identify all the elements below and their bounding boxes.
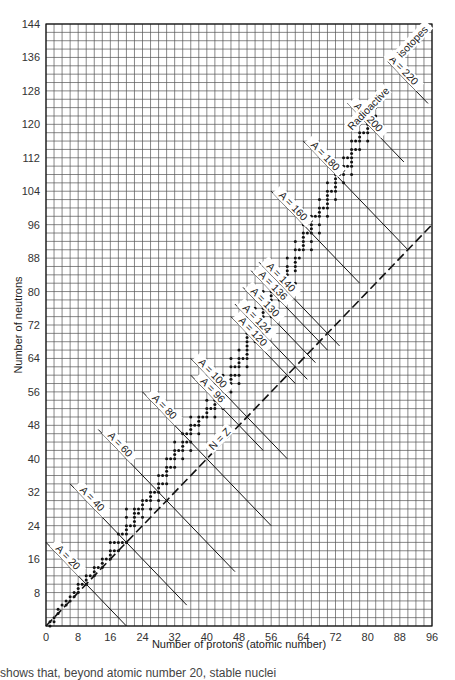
isotope-point (238, 349, 241, 352)
isotope-point (149, 507, 152, 510)
svg-text:A = 180: A = 180 (309, 139, 343, 173)
isotope-point (213, 407, 216, 410)
y-tick-label: 64 (28, 352, 40, 364)
isotope-point (350, 152, 353, 155)
y-tick-label: 96 (28, 219, 40, 231)
isotope-point (197, 432, 200, 435)
isotope-point (238, 382, 241, 385)
isotope-point (125, 533, 128, 536)
isotope-point (246, 340, 249, 343)
isotope-point (141, 503, 144, 506)
isotope-point (89, 574, 92, 577)
isotope-point (77, 587, 80, 590)
isotope-point (294, 265, 297, 268)
y-tick-label: 48 (28, 419, 40, 431)
isotope-point (49, 620, 52, 623)
isotope-point (310, 227, 313, 230)
isotope-point (117, 541, 120, 544)
isotope-point (205, 407, 208, 410)
isotope-point (173, 466, 176, 469)
isotope-point (246, 357, 249, 360)
isotope-point (185, 432, 188, 435)
isotope-point (346, 165, 349, 168)
y-tick-label: 136 (22, 51, 40, 63)
isotope-point (326, 198, 329, 201)
isotope-point (185, 441, 188, 444)
isotope-point (93, 566, 96, 569)
isotope-point (294, 240, 297, 243)
x-tick-label: 8 (75, 631, 81, 643)
isotope-point (157, 499, 160, 502)
isotope-point (350, 165, 353, 168)
isotope-point (121, 541, 124, 544)
y-tick-label: 112 (22, 152, 40, 164)
isotope-point (169, 457, 172, 460)
isotope-point (165, 457, 168, 460)
isobar-lines (46, 62, 428, 626)
isotope-point (161, 474, 164, 477)
isotope-point (233, 365, 236, 368)
isotope-point (57, 612, 60, 615)
isotope-point (326, 194, 329, 197)
isotope-point (85, 579, 88, 582)
isotope-point (262, 311, 265, 314)
isotope-point (65, 599, 68, 602)
isotope-point (109, 549, 112, 552)
isotope-point (354, 148, 357, 151)
isotope-point (310, 223, 313, 226)
x-tick-label: 0 (43, 631, 49, 643)
isotope-point (93, 574, 96, 577)
isotope-point (246, 353, 249, 356)
isotope-point (129, 524, 132, 527)
isotope-point (358, 131, 361, 134)
isotope-point (133, 507, 136, 510)
isotope-point (294, 269, 297, 272)
isotope-point (366, 131, 369, 134)
isotope-point (149, 499, 152, 502)
isotope-point (209, 407, 212, 410)
isotope-point (77, 591, 80, 594)
isobar-label: A = 40 (74, 479, 111, 517)
isotope-point (318, 206, 321, 209)
isotope-point (189, 432, 192, 435)
isotope-point (165, 482, 168, 485)
isotope-point (193, 424, 196, 427)
isotope-point (362, 131, 365, 134)
isotope-point (330, 190, 333, 193)
isotope-point (346, 156, 349, 159)
isotope-point (181, 432, 184, 435)
isotope-point (113, 541, 116, 544)
isotope-point (246, 344, 249, 347)
isotope-point (101, 562, 104, 565)
isotope-point (133, 520, 136, 523)
isotope-point (229, 374, 232, 377)
isotope-point (137, 507, 140, 510)
isobar-label: A = 20 (50, 538, 87, 576)
isotope-point (298, 257, 301, 260)
isotope-point (125, 528, 128, 531)
isotope-point (165, 466, 168, 469)
isotope-point (109, 553, 112, 556)
isotope-point (302, 240, 305, 243)
n-equals-z-label: N = Z (204, 423, 235, 454)
isotope-point (238, 357, 241, 360)
isotope-point (358, 148, 361, 151)
isotope-point (181, 441, 184, 444)
isotope-point (213, 403, 216, 406)
y-tick-label: 24 (28, 520, 40, 532)
isotope-point (350, 148, 353, 151)
isotope-point (334, 190, 337, 193)
isotope-point (109, 541, 112, 544)
isotope-point (61, 604, 64, 607)
isotope-point (165, 470, 168, 473)
isotope-point (326, 181, 329, 184)
isotope-point (125, 516, 128, 519)
isotope-point (189, 428, 192, 431)
isotope-point (121, 533, 124, 536)
isotope-point (286, 269, 289, 272)
isotope-point (125, 507, 128, 510)
isotope-point (205, 411, 208, 414)
isotope-point (326, 202, 329, 205)
isotope-point (65, 604, 68, 607)
isotope-point (302, 248, 305, 251)
